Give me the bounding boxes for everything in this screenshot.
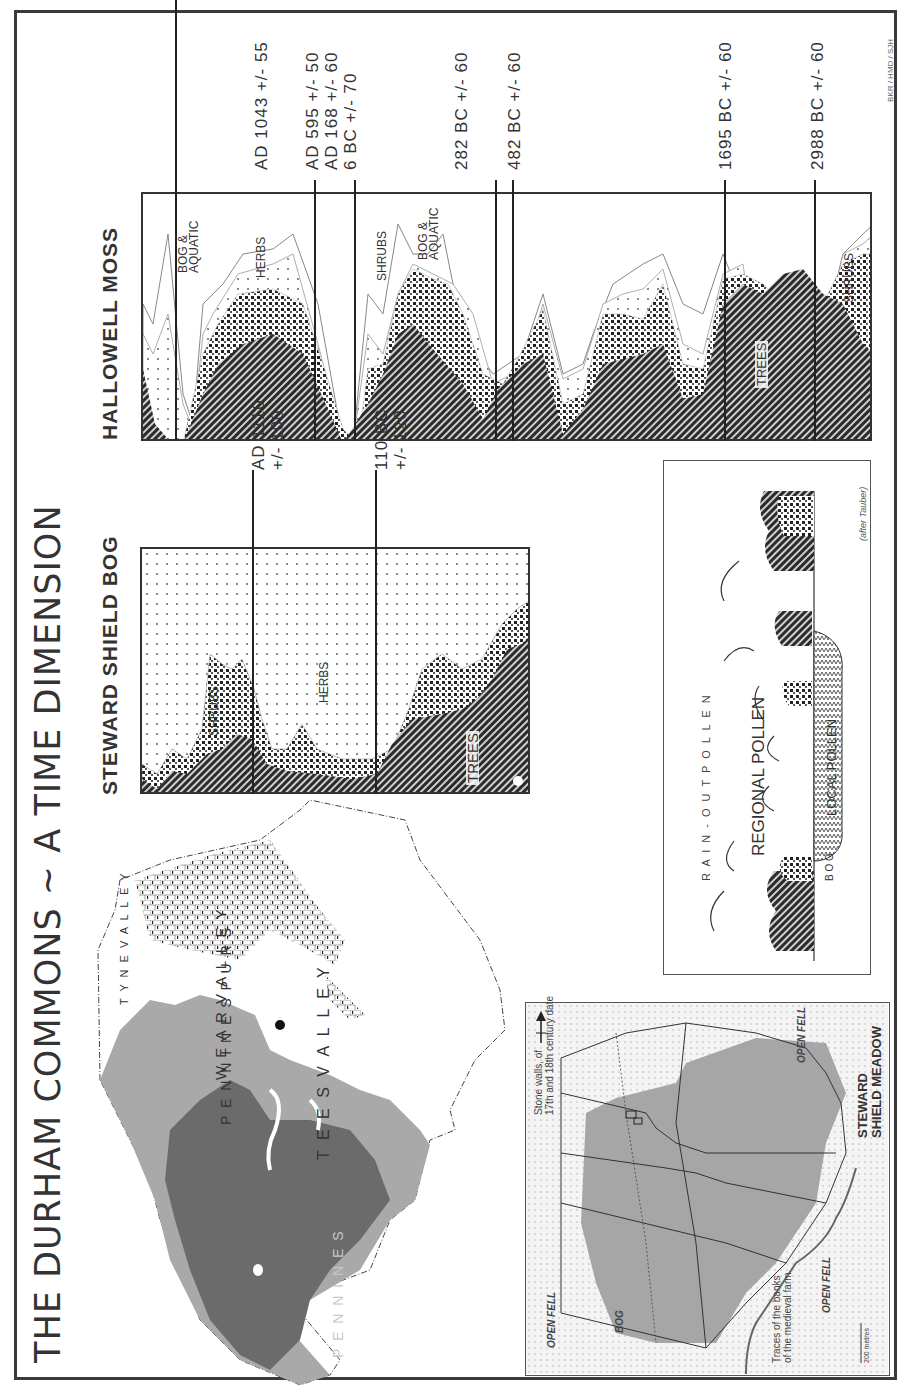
bog-map-label: BOG — [614, 1310, 625, 1333]
date-line-110bc — [375, 470, 377, 794]
stone-walls-line1: Stone walls, of — [533, 996, 544, 1115]
after-tauber-attribution: (after Tauber) — [858, 487, 868, 541]
meadow-map-drawing — [526, 1003, 888, 1374]
bog-label: B O G — [824, 853, 835, 881]
date-label-482bc: 482 BC +/- 60 — [505, 52, 524, 170]
date-label-1695bc: 1695 BC +/- 60 — [716, 41, 735, 170]
label-trees-hallowell: TREES — [755, 341, 768, 388]
label-bog-aquatic-1: BOG & AQUATIC — [178, 191, 200, 275]
rain-out-pollen-label: R A I N - O U T P O L L E N — [700, 693, 712, 881]
meadow-title-line2: SHIELD MEADOW — [870, 1026, 884, 1138]
date-line-282bc — [495, 180, 497, 441]
label-shrubs-2: SHRUBS — [843, 251, 856, 305]
date-label-110bc: 110 BC +/- 120 — [372, 409, 410, 470]
label-trees-ssb: TREES — [466, 731, 479, 785]
label-bog-aquatic-2: BOG & AQUATIC — [418, 178, 440, 262]
open-fell-label-3: OPEN FELL — [796, 1007, 807, 1063]
date-label-110bc-line1: 110 BC — [372, 409, 391, 470]
steward-shield-meadow-map: Stone walls, of 17th and 18th century da… — [525, 1002, 890, 1376]
label-herbs-ssb: HERBS — [318, 660, 331, 705]
medieval-banks-label: Traces of the banks of the medieval farm — [771, 1272, 793, 1363]
date-label-ad1110-line1: AD 1110 — [249, 399, 268, 470]
scale-bar-label: 200 metres — [863, 1328, 870, 1363]
date-label-ad1110: AD 1110 +/- 100 — [249, 399, 287, 470]
stone-walls-line2: 17th and 18th century date — [544, 996, 555, 1115]
date-label-2988bc: 2988 BC +/- 60 — [808, 41, 827, 170]
traces-line2: of the medieval farm — [782, 1272, 793, 1363]
date-label-ad1110-line2: +/- 100 — [268, 399, 287, 470]
open-fell-label-2: OPEN FELL — [821, 1257, 832, 1313]
date-line-482bc — [512, 180, 514, 441]
date-label-110bc-line2: +/- 120 — [391, 409, 410, 470]
date-line-ad1043 — [175, 0, 177, 441]
stone-walls-label: Stone walls, of 17th and 18th century da… — [533, 996, 555, 1115]
date-label-ad1043: AD 1043 +/- 55 — [252, 41, 271, 170]
date-label-6bc: 6 BC +/- 70 — [341, 73, 360, 170]
credit-text: BKR / HMD / SJH — [886, 39, 895, 102]
pennine-spurs-label: P E N N I N E S P U R S — [218, 926, 234, 1125]
tees-valley-label: T E E S V A L L E Y — [315, 964, 333, 1160]
date-line-1695bc — [724, 180, 726, 441]
pennines-label: P E N N I N E S — [330, 1229, 346, 1358]
date-label-282bc: 282 BC +/- 60 — [452, 52, 471, 170]
date-line-6bc — [354, 180, 356, 441]
local-pollen-label: LOCAL POLLEN — [824, 719, 839, 816]
label-shrubs-1: SHRUBS — [376, 229, 389, 283]
date-label-ad595: AD 595 +/- 50 — [303, 52, 322, 170]
label-shrubs-ssb: SHRUBS — [208, 684, 221, 738]
meadow-map-title: STEWARD SHIELD MEADOW — [856, 1026, 884, 1138]
traces-line1: Traces of the banks — [771, 1272, 782, 1363]
hallowell-moss-title: HALLOWELL MOSS — [98, 227, 122, 440]
tyne-valley-label: T Y N E V A L L E Y — [118, 871, 130, 1005]
label-herbs: HERBS — [255, 235, 268, 280]
date-line-2988bc — [814, 180, 816, 441]
date-line-ad1110 — [252, 470, 254, 794]
open-fell-label-1: OPEN FELL — [546, 1292, 557, 1348]
date-label-ad168: AD 168 +/- 60 — [322, 52, 341, 170]
date-line-ad595 — [314, 180, 316, 441]
steward-shield-bog-title: STEWARD SHIELD BOG — [98, 535, 122, 795]
pollen-dispersal-diagram: R A I N - O U T P O L L E N REGIONAL POL… — [663, 460, 871, 975]
meadow-title-line1: STEWARD — [856, 1026, 870, 1138]
regional-pollen-label: REGIONAL POLLEN — [749, 697, 769, 856]
